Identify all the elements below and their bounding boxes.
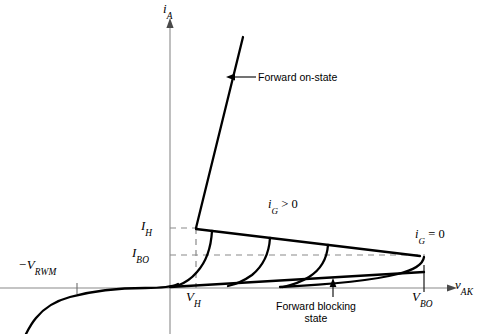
x-axis-label-subscript: AK (461, 287, 473, 297)
tick-label-vh-main: V (186, 289, 194, 304)
annotation-forward-blocking-state: Forward blocking state (276, 300, 356, 324)
breakover-curve-2 (228, 238, 270, 286)
tick-label-ibo-subscript: BO (136, 255, 149, 265)
annotation-forward-blocking-line2: state (276, 312, 356, 324)
cond-ig-zero-subscript: G (418, 236, 425, 246)
cond-ig-pos-rel: > 0 (278, 197, 298, 211)
tick-label-vbo-main: V (412, 289, 420, 304)
annotation-forward-on-state: Forward on-state (258, 71, 337, 83)
plot-canvas (0, 0, 477, 334)
x-axis-label-main: v (455, 277, 461, 292)
tick-label-breakover-current: IBO (132, 246, 149, 263)
forward-blocking-locus-line (170, 272, 424, 287)
tick-label-reverse-working-voltage: −VRWM (18, 258, 56, 275)
characteristic-curves-group (26, 37, 424, 334)
forward-on-state-line (196, 37, 243, 228)
tick-label-vrwm-subscript: RWM (35, 267, 57, 277)
tick-label-vh-subscript: H (194, 299, 201, 309)
cond-ig-pos-subscript: G (271, 206, 278, 216)
leader-arrow-forward-on (226, 74, 235, 81)
tick-label-holding-current: IH (141, 219, 152, 236)
tick-label-ih-subscript: H (145, 228, 152, 238)
leader-lines-group (226, 74, 336, 297)
x-axis-label: vAK (455, 278, 473, 295)
tick-label-breakover-voltage: VBO (412, 290, 433, 307)
breakover-curve-1 (177, 231, 212, 286)
cond-ig-zero-rel: = 0 (425, 227, 445, 241)
tick-label-holding-voltage: VH (186, 290, 201, 307)
reverse-blocking-curve (26, 284, 178, 334)
condition-label-gate-current-positive: iG > 0 (268, 198, 298, 214)
annotation-forward-blocking-line1: Forward blocking (276, 300, 356, 312)
holding-locus-line (196, 229, 420, 256)
tick-label-vbo-subscript: BO (420, 299, 433, 309)
breakover-curve-4 (280, 257, 424, 287)
condition-label-gate-current-zero: iG = 0 (415, 228, 445, 244)
y-axis-label: iA (163, 2, 173, 19)
tick-label-vrwm-main: −V (18, 257, 35, 272)
thyristor-characteristic-figure: iA vAK IH IBO VH VBO −VRWM iG > 0 iG = 0… (0, 0, 477, 334)
y-axis-label-subscript: A (167, 11, 173, 21)
